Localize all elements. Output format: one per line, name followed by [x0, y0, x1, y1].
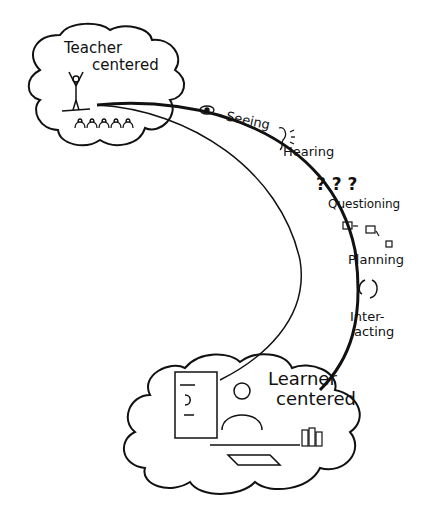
question-marks-icon: ? ? ?: [316, 174, 357, 194]
step-questioning: Questioning: [328, 198, 400, 210]
learner-label-line2: centered: [276, 390, 356, 408]
audience-icon: [75, 119, 133, 128]
learner-centered-title: Learner centered: [268, 370, 356, 408]
interacting-line2: acting: [354, 325, 394, 338]
step-interacting: Inter- acting: [350, 310, 394, 338]
books-icon: [302, 428, 322, 446]
teacher-label-line2: centered: [92, 58, 159, 73]
teacher-label-line1: Teacher: [64, 41, 159, 56]
interacting-line1: Inter-: [350, 310, 394, 323]
teacher-centered-title: Teacher centered: [64, 41, 159, 73]
teacher-figure-icon: [62, 72, 90, 111]
path-band-inner: [97, 105, 301, 380]
learner-label-line1: Learner: [268, 370, 356, 388]
step-planning: Planning: [348, 253, 404, 266]
whiteboard-icon: [175, 372, 217, 438]
step-hearing: Hearing: [283, 145, 334, 158]
cycle-arrows-icon: [359, 280, 377, 298]
